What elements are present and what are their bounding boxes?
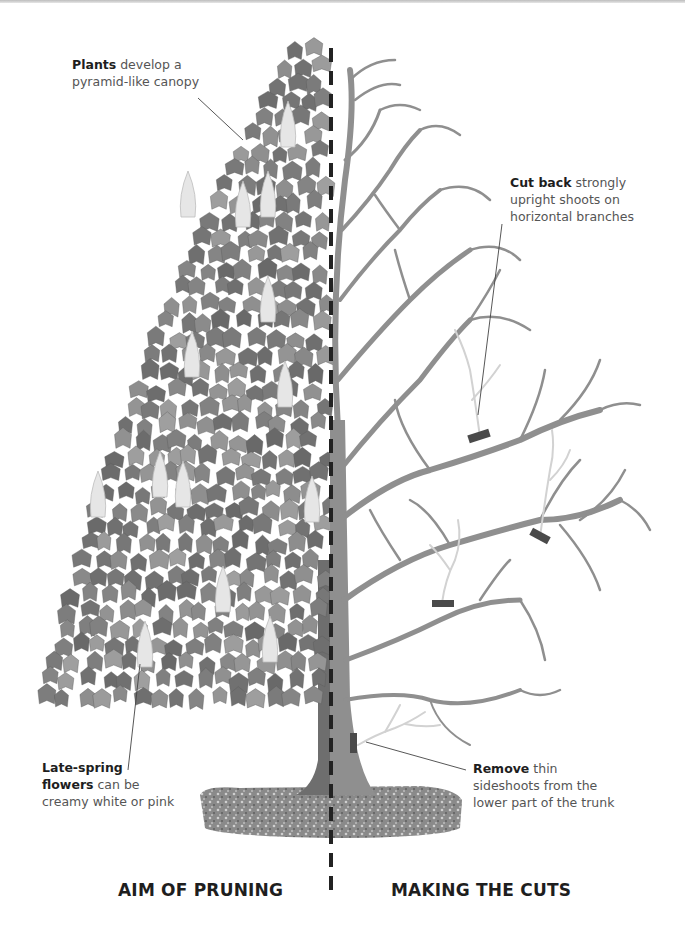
leaf bbox=[243, 296, 262, 312]
leaf bbox=[74, 632, 90, 652]
leaf bbox=[110, 620, 129, 640]
leaf bbox=[248, 245, 265, 261]
leaf bbox=[147, 386, 166, 402]
annotation-remove-bold: Remove bbox=[473, 761, 529, 776]
cut-mark bbox=[432, 600, 454, 607]
leaf bbox=[239, 496, 259, 515]
flower-spike bbox=[180, 171, 195, 217]
annotation-canopy-bold: Plants bbox=[72, 57, 116, 72]
leaf bbox=[312, 140, 329, 156]
leaf bbox=[302, 615, 317, 634]
leaf bbox=[262, 450, 277, 469]
leaf bbox=[250, 365, 266, 383]
leaf bbox=[303, 384, 321, 401]
annotation-canopy-text: develop a bbox=[116, 57, 181, 72]
leaf bbox=[279, 449, 296, 467]
leaf bbox=[305, 282, 322, 300]
caption-making-the-cuts: MAKING THE CUTS bbox=[391, 880, 571, 900]
annotation-remove-line3: lower part of the trunk bbox=[473, 794, 614, 811]
leaf bbox=[210, 190, 227, 209]
leaf bbox=[61, 589, 80, 608]
leaf bbox=[251, 484, 265, 501]
annotation-flowers-line3: creamy white or pink bbox=[42, 793, 174, 810]
leaf bbox=[277, 60, 291, 78]
leaf bbox=[236, 309, 251, 326]
leader-remove bbox=[366, 742, 466, 770]
leaf bbox=[291, 651, 306, 672]
leaf bbox=[268, 538, 288, 554]
annotation-flowers-text: can be bbox=[93, 777, 139, 792]
annotation-canopy-line2: pyramid-like canopy bbox=[72, 73, 199, 90]
leaf bbox=[216, 348, 236, 366]
leaf bbox=[213, 413, 232, 430]
leaf bbox=[189, 689, 204, 710]
leaf bbox=[200, 396, 220, 416]
leaf bbox=[38, 684, 56, 704]
annotation-canopy: Plants develop a pyramid-like canopy bbox=[72, 56, 199, 90]
leaf bbox=[182, 296, 196, 314]
leaf bbox=[149, 549, 169, 569]
leaf bbox=[213, 536, 229, 553]
leaf bbox=[189, 553, 205, 570]
leaf bbox=[246, 689, 265, 708]
leaf bbox=[83, 582, 98, 601]
leaf bbox=[120, 600, 136, 620]
flower-spike bbox=[262, 616, 277, 662]
leaf bbox=[156, 533, 170, 552]
leaf bbox=[150, 495, 166, 515]
leaf bbox=[188, 244, 204, 264]
annotation-cut-back-line2: upright shoots on bbox=[510, 191, 634, 208]
leaf bbox=[251, 469, 270, 486]
annotation-remove: Remove thin sideshoots from the lower pa… bbox=[473, 760, 614, 811]
leaf bbox=[236, 603, 250, 621]
annotation-cut-back-text: strongly bbox=[572, 175, 627, 190]
leaf bbox=[208, 617, 223, 633]
leaf bbox=[209, 549, 226, 569]
leaf bbox=[110, 550, 127, 569]
leaf bbox=[196, 534, 212, 555]
leaf bbox=[193, 622, 209, 638]
leaf bbox=[178, 532, 192, 552]
leaf bbox=[312, 55, 332, 72]
leaf bbox=[267, 245, 282, 261]
leaf bbox=[169, 688, 183, 707]
leaf bbox=[282, 688, 301, 706]
leaf bbox=[215, 363, 230, 383]
caption-aim-of-pruning: AIM OF PRUNING bbox=[118, 880, 283, 900]
leaf bbox=[93, 689, 111, 709]
annotation-flowers: Late-spring flowers can be creamy white … bbox=[42, 759, 174, 810]
leaf bbox=[144, 345, 160, 362]
leaf bbox=[104, 672, 118, 689]
annotation-cut-back-line3: horizontal branches bbox=[510, 208, 634, 225]
leaf bbox=[122, 651, 136, 669]
leaf bbox=[186, 638, 204, 655]
leaf bbox=[293, 400, 308, 419]
leaf bbox=[134, 670, 150, 691]
leaf bbox=[285, 552, 301, 569]
leaf bbox=[283, 161, 303, 181]
leaf bbox=[135, 487, 150, 504]
leaf bbox=[290, 604, 305, 620]
leaf bbox=[307, 530, 323, 549]
leaf bbox=[263, 126, 279, 147]
leaf bbox=[193, 227, 211, 245]
leaf bbox=[315, 212, 329, 231]
leader-cut-back bbox=[478, 224, 502, 415]
leaf bbox=[128, 446, 144, 466]
leaf bbox=[288, 73, 308, 91]
leaf bbox=[313, 311, 331, 331]
leaf bbox=[131, 503, 148, 523]
leaf bbox=[194, 314, 210, 334]
leaf bbox=[287, 41, 302, 59]
leaf bbox=[306, 157, 320, 177]
leaf bbox=[107, 517, 123, 536]
leaf bbox=[131, 553, 147, 571]
leaf bbox=[215, 667, 231, 684]
annotation-flowers-bold2: flowers bbox=[42, 777, 93, 792]
leaf bbox=[192, 378, 209, 396]
leaf bbox=[169, 548, 186, 566]
leaf bbox=[211, 309, 229, 329]
leaf bbox=[141, 359, 159, 380]
leaf bbox=[292, 263, 310, 281]
leaf bbox=[284, 485, 301, 504]
